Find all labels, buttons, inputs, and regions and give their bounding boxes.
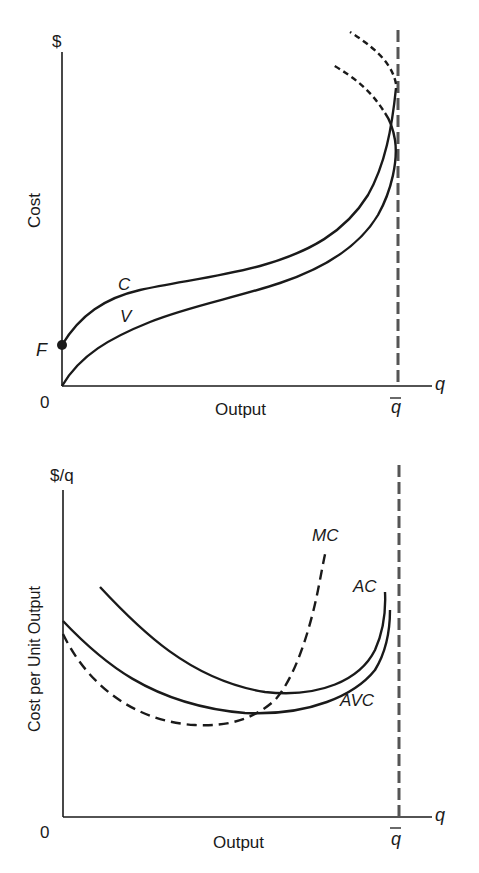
variable-cost-curve-v-backbend [333, 65, 383, 110]
fixed-cost-point [57, 340, 67, 350]
average-cost-curve [100, 587, 385, 693]
variable-cost-curve-v [62, 113, 396, 386]
bottom-capacity-label: q [391, 829, 401, 849]
marginal-cost-curve [63, 550, 326, 725]
avc-label: AVC [339, 691, 375, 710]
mc-label: MC [312, 526, 339, 545]
top-y-unit-label: $ [52, 32, 62, 51]
cost-curves-figure: $ Cost 0 Output q q F C V $/q Cost per U… [0, 0, 479, 873]
total-cost-curve-c-backbend [350, 32, 396, 84]
bottom-y-axis-label: Cost per Unit Output [26, 586, 43, 732]
top-x-symbol: q [435, 374, 445, 394]
curve-v-label: V [120, 307, 133, 326]
bottom-x-symbol: q [435, 805, 445, 825]
bottom-x-axis-label: Output [213, 833, 264, 852]
top-origin-label: 0 [40, 393, 49, 412]
top-x-axis-label: Output [215, 400, 266, 419]
ac-label: AC [352, 577, 377, 596]
fixed-cost-label: F [36, 340, 48, 360]
top-capacity-label: q [391, 397, 401, 417]
top-y-axis-label: Cost [25, 193, 44, 228]
total-cost-curve-c [62, 88, 396, 345]
bottom-y-unit-label: $/q [50, 466, 74, 485]
curve-c-label: C [118, 275, 131, 294]
unit-cost-chart: $/q Cost per Unit Output 0 Output q q MC… [26, 465, 445, 852]
bottom-origin-label: 0 [40, 823, 49, 842]
total-cost-chart: $ Cost 0 Output q q F C V [25, 30, 445, 419]
